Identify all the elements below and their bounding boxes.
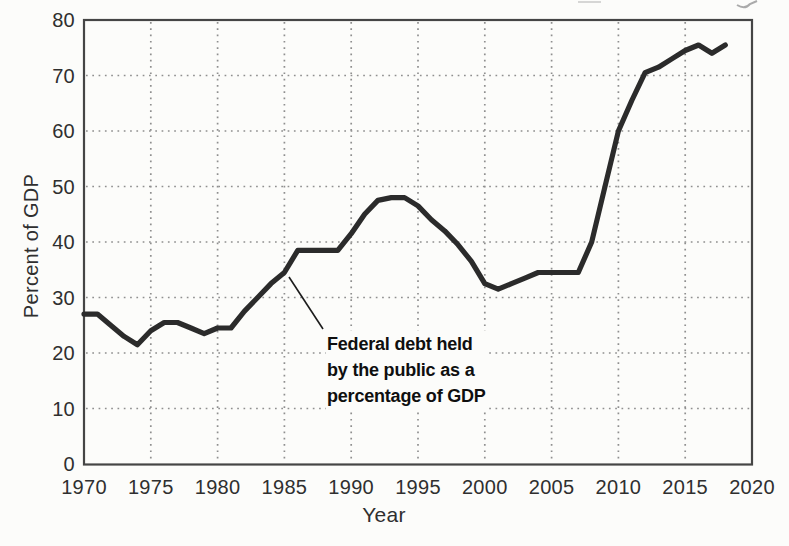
x-tick-label-2005: 2005 [529, 476, 575, 499]
x-axis-title: Year [362, 503, 406, 527]
x-tick-label-2015: 2015 [662, 476, 708, 499]
annotation-line-3: percentage of GDP [327, 383, 486, 409]
annotation-line-1: Federal debt held [327, 331, 486, 357]
x-tick-label-1985: 1985 [262, 476, 308, 499]
series-annotation: Federal debt held by the public as a per… [326, 331, 489, 411]
page-artifact-glyph [737, 1, 757, 7]
x-tick-label-2020: 2020 [729, 476, 775, 499]
y-tick-label-10: 10 [52, 397, 75, 420]
x-tick-label-2000: 2000 [462, 476, 508, 499]
chart-figure: 01020304050607080 1970197519801985199019… [0, 0, 789, 546]
y-tick-label-70: 70 [52, 64, 75, 87]
y-axis-title: Percent of GDP [20, 174, 43, 318]
y-tick-label-20: 20 [52, 342, 75, 365]
y-tick-label-60: 60 [52, 120, 75, 143]
annotation-line-2: by the public as a [327, 357, 486, 383]
x-tick-label-1975: 1975 [128, 476, 174, 499]
x-tick-label-1995: 1995 [395, 476, 441, 499]
y-tick-label-50: 50 [52, 175, 75, 198]
x-tick-label-1970: 1970 [61, 476, 107, 499]
x-tick-label-1980: 1980 [195, 476, 241, 499]
y-tick-label-30: 30 [52, 286, 75, 309]
y-tick-label-40: 40 [52, 231, 75, 254]
chart-canvas [0, 0, 789, 546]
debt-line-series [84, 45, 725, 345]
x-tick-label-1990: 1990 [328, 476, 374, 499]
y-tick-label-0: 0 [64, 453, 75, 476]
x-tick-label-2010: 2010 [596, 476, 642, 499]
annotation-leader-line [289, 277, 323, 329]
y-tick-label-80: 80 [52, 9, 75, 32]
